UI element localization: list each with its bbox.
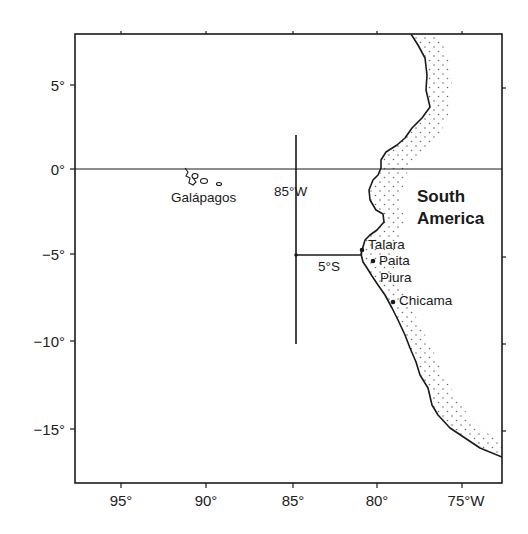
south-america-label-line1: South [417,187,465,206]
parallel-5s-label: 5°S [318,259,340,274]
galapagos-label: Galápagos [171,190,237,205]
x-tick-label-95: 95° [110,492,133,509]
meridian-85w-label: 85°W [274,184,307,199]
y-tick-label-0: 0° [51,161,65,178]
south-america-label-line2: America [417,209,485,228]
y-tick-label-minus5: −5° [42,246,65,263]
paita-marker [371,259,376,264]
talara-marker [360,248,365,253]
paita-label: Paita [379,253,410,268]
chicama-label: Chicama [399,293,453,308]
y-tick-label-minus15: −15° [34,421,65,438]
piura-label: Piura [380,270,412,285]
x-tick-label-90: 90° [195,492,218,509]
map-figure: 95° 90° 85° 80° 75°W 5° 0° −5° −10° −15°… [0,0,528,534]
x-tick-label-80: 80° [366,492,389,509]
crosshair-center [294,253,298,257]
y-tick-label-minus10: −10° [34,333,65,350]
x-tick-label-85: 85° [282,492,305,509]
talara-label: Talara [368,237,405,252]
chicama-marker [391,300,396,305]
y-tick-label-5: 5° [51,77,65,94]
galapagos-islands [185,168,222,186]
x-tick-label-75w: 75°W [448,492,486,509]
